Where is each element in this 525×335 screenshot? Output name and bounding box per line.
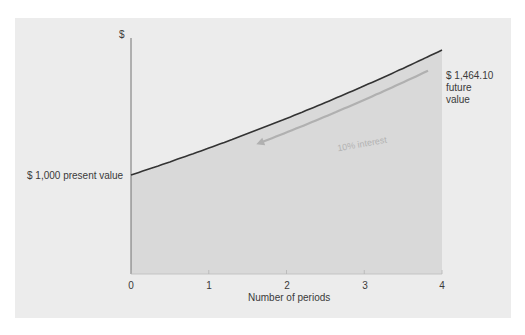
x-tick-3: 3 [362, 280, 368, 291]
x-tick-1: 1 [206, 280, 212, 291]
x-tick-2: 2 [284, 280, 290, 291]
future-value-amount: $ 1,464.10 [446, 70, 493, 82]
future-value-text-1: future [446, 82, 493, 94]
plot-area [0, 0, 525, 335]
present-value-label: $ 1,000 present value [27, 170, 123, 181]
x-axis-label: Number of periods [248, 292, 330, 303]
area-fill [131, 50, 442, 274]
future-value-label: $ 1,464.10 future value [446, 70, 493, 106]
x-tick-0: 0 [128, 280, 134, 291]
y-axis-label: $ [119, 29, 125, 40]
x-tick-4: 4 [439, 280, 445, 291]
future-value-text-2: value [446, 94, 493, 106]
